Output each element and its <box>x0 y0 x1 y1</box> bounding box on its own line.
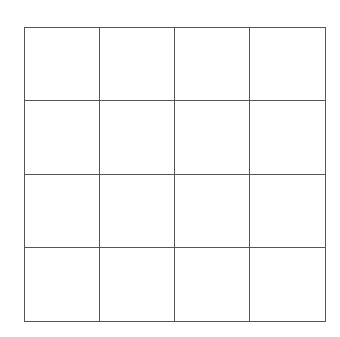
grid-cell-r1-c2[interactable] <box>175 101 250 174</box>
grid-cell-r2-c0[interactable] <box>25 175 100 248</box>
grid-cell-r0-c1[interactable] <box>100 28 175 101</box>
grid-cell-r2-c2[interactable] <box>175 175 250 248</box>
grid-cell-r1-c3[interactable] <box>250 101 325 174</box>
grid-cell-r1-c1[interactable] <box>100 101 175 174</box>
grid-cell-r3-c2[interactable] <box>175 248 250 321</box>
grid-cell-r0-c0[interactable] <box>25 28 100 101</box>
grid-cell-r3-c1[interactable] <box>100 248 175 321</box>
grid-board <box>24 27 326 322</box>
grid-cell-r2-c1[interactable] <box>100 175 175 248</box>
grid-cell-r0-c2[interactable] <box>175 28 250 101</box>
grid-cell-r1-c0[interactable] <box>25 101 100 174</box>
grid-cell-r0-c3[interactable] <box>250 28 325 101</box>
grid-cell-r3-c3[interactable] <box>250 248 325 321</box>
grid-cell-r2-c3[interactable] <box>250 175 325 248</box>
grid-cell-r3-c0[interactable] <box>25 248 100 321</box>
